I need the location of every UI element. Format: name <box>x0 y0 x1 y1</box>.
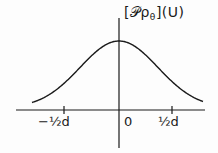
tick-label-pos-half-d: ½d <box>158 114 179 129</box>
diagram-canvas: [𝒫ρθ](U) −½d 0 ½d <box>0 0 218 153</box>
bell-curve <box>32 41 203 103</box>
tick-label-zero: 0 <box>124 114 132 129</box>
y-axis-label: [𝒫ρθ](U) <box>124 4 185 22</box>
ylabel-bracket-close: ](U) <box>156 4 185 20</box>
plot-svg <box>0 0 218 153</box>
tick-label-neg-half-d: −½d <box>38 114 70 129</box>
ylabel-operator: 𝒫ρ <box>130 4 150 20</box>
